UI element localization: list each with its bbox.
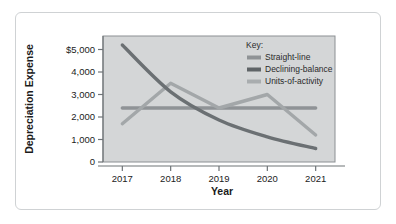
legend-swatch [247,68,261,72]
y-axis-ticks [98,50,103,163]
legend-label: Units-of-activity [265,76,324,86]
legend-label: Straight-line [265,52,311,62]
depreciation-expense-chart: 01,0002,0003,0004,000$5,000 201720182019… [0,0,396,224]
x-axis-tick-label: 2020 [257,173,278,184]
y-axis-tick-label: 3,000 [71,89,95,100]
y-axis-tick-label: 0 [90,156,95,167]
x-axis-tick-label: 2019 [208,173,229,184]
y-axis-tick-label: $5,000 [66,44,95,55]
y-axis-tick-label: 1,000 [71,134,95,145]
y-axis-tick-labels: 01,0002,0003,0004,000$5,000 [66,44,95,168]
x-axis-tick-label: 2021 [305,173,326,184]
x-axis-title: Year [211,185,233,197]
x-axis-tick-label: 2017 [112,173,133,184]
x-axis-ticks [122,166,315,171]
legend-label: Declining-balance [265,64,333,74]
legend-heading: Key: [246,40,263,50]
legend-swatch [247,56,261,60]
x-axis-tick-label: 2018 [160,173,181,184]
x-axis-tick-labels: 20172018201920202021 [112,173,326,184]
legend-swatch [247,80,261,84]
y-axis-tick-label: 2,000 [71,111,95,122]
y-axis-title: Depreciation Expense [23,44,35,154]
chart-svg: 01,0002,0003,0004,000$5,000 201720182019… [0,0,396,224]
y-axis-tick-label: 4,000 [71,66,95,77]
